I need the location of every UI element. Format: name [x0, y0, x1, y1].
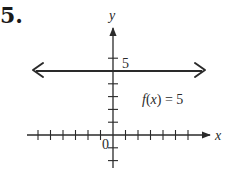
- function-line: [33, 63, 205, 77]
- x-axis: [27, 130, 210, 140]
- function-label: f(x) = 5: [142, 92, 183, 108]
- origin-label: 0: [102, 137, 109, 152]
- y-tick-label-5: 5: [122, 56, 129, 71]
- y-axis-label: y: [107, 8, 116, 23]
- coordinate-graph: y x 5 0 f(x) = 5: [0, 0, 225, 175]
- y-axis: [108, 28, 118, 168]
- x-axis-label: x: [214, 128, 222, 143]
